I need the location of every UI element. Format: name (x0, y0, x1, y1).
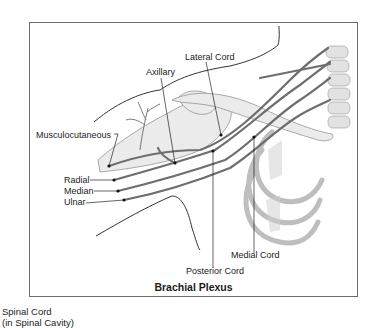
brachial-plexus-illustration (0, 0, 375, 328)
caption-line-1: Spinal Cord (2, 306, 74, 317)
label-axillary: Axillary (146, 67, 175, 77)
label-musculocutaneous: Musculocutaneous (36, 130, 111, 140)
caption-line-2: (in Spinal Cavity) (2, 317, 74, 328)
spine-vertebrae (326, 46, 350, 128)
label-posterior-cord: Posterior Cord (186, 266, 244, 276)
shoulder-bones (98, 91, 333, 172)
label-medial-cord: Medial Cord (231, 250, 280, 260)
label-lateral-cord: Lateral Cord (185, 52, 235, 62)
diagram-title: Brachial Plexus (29, 281, 358, 293)
label-ulnar: Ulnar (64, 197, 86, 207)
label-radial: Radial (64, 175, 90, 185)
caption: Spinal Cord (in Spinal Cavity) (2, 306, 74, 328)
label-median: Median (64, 186, 94, 196)
intercostal-shading (266, 140, 282, 232)
